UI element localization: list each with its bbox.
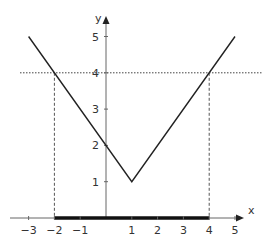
x-tick-label: 3 [180,224,187,237]
y-axis-arrow-icon [103,16,110,24]
y-tick-label: 1 [92,176,99,189]
x-tick-label: 4 [206,224,213,237]
x-axis-arrow-icon [236,215,244,222]
x-tick-label: 1 [128,224,135,237]
y-tick-label: 3 [92,103,99,116]
y-tick-label: 5 [92,31,99,44]
x-tick-label: 5 [232,224,239,237]
x-axis-label: x [248,204,255,217]
x-tick-label: 2 [154,224,161,237]
y-axis-label: y [95,12,102,25]
y-tick-label: 2 [92,139,99,152]
x-tick-label: −1 [72,224,88,237]
y-tick-label: 4 [92,67,99,80]
plot-area: xy−3−2−11234512345 [10,12,262,237]
x-tick-label: −3 [20,224,36,237]
function-graph [29,37,235,182]
chart: xy−3−2−11234512345 [0,0,266,250]
x-tick-label: −2 [46,224,62,237]
